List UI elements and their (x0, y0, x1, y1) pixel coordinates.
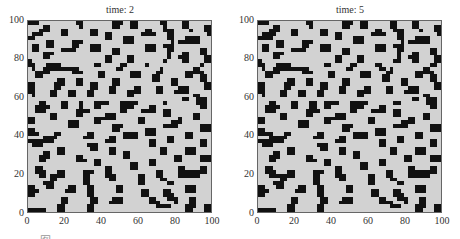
y-tick-40: 40 (0, 130, 24, 140)
y-tick-80: 80 (0, 53, 24, 63)
y-tick-80: 80 (230, 53, 254, 63)
x-tick-100: 100 (197, 215, 227, 226)
chart-title: time: 2 (27, 4, 213, 15)
x-tick-80: 80 (390, 215, 420, 226)
x-tick-60: 60 (123, 215, 153, 226)
plot-area (27, 20, 212, 213)
x-tick-0: 0 (242, 215, 272, 226)
y-tick-100: 100 (230, 15, 254, 25)
pattern-grid (28, 21, 211, 212)
x-tick-60: 60 (353, 215, 383, 226)
x-tick-20: 20 (279, 215, 309, 226)
x-tick-40: 40 (86, 215, 116, 226)
y-tick-20: 20 (230, 169, 254, 179)
x-tick-80: 80 (160, 215, 190, 226)
pattern-grid (258, 21, 441, 212)
y-tick-40: 40 (230, 130, 254, 140)
plot-area (257, 20, 442, 213)
chart-title: time: 5 (257, 4, 443, 15)
y-tick-100: 100 (0, 15, 24, 25)
panel-time-2: time: 2 100 80 60 40 20 0 0 20 40 60 80 … (0, 0, 230, 239)
panel-time-5: time: 5 100 80 60 40 20 0 0 20 40 60 80 … (230, 0, 460, 239)
y-tick-60: 60 (0, 92, 24, 102)
y-tick-20: 20 (0, 169, 24, 179)
x-tick-20: 20 (49, 215, 79, 226)
y-tick-60: 60 (230, 92, 254, 102)
x-tick-40: 40 (316, 215, 346, 226)
figure-caption: 图 —————————————— (40, 232, 420, 239)
x-tick-100: 100 (427, 215, 457, 226)
x-tick-0: 0 (12, 215, 42, 226)
